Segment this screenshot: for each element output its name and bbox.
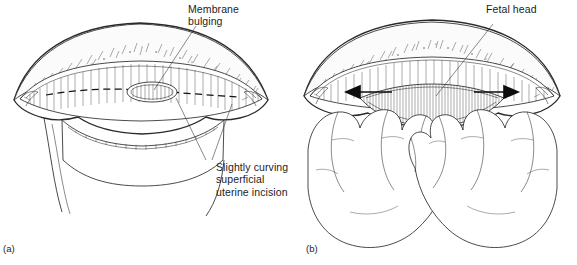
caption-panel-b: (b) — [306, 243, 318, 254]
right-hand-b — [409, 110, 557, 248]
panel-a-illustration — [0, 0, 289, 265]
label-membrane-line2: bulging — [188, 15, 223, 27]
figure-root: Membranebulging Slightly curvingsuperfic… — [0, 0, 577, 265]
label-membrane-bulging: Membranebulging — [188, 3, 239, 28]
label-uterine-incision: Slightly curvingsuperficialuterine incis… — [216, 161, 288, 198]
label-incision-line2: superficial — [216, 173, 264, 185]
label-incision-line3: uterine incision — [216, 186, 288, 198]
label-membrane-line1: Membrane — [188, 3, 239, 15]
panel-b: Fetal head (b) — [288, 0, 577, 265]
panel-a: Membranebulging Slightly curvingsuperfic… — [0, 0, 289, 265]
panel-b-illustration — [288, 0, 577, 265]
label-fetal-head: Fetal head — [486, 3, 537, 15]
caption-panel-a: (a) — [3, 243, 15, 254]
membrane-bulge-a — [127, 82, 177, 102]
label-incision-line1: Slightly curving — [216, 161, 288, 173]
